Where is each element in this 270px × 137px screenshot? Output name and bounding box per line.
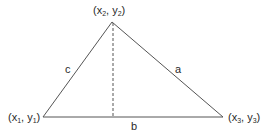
vertex-2-y-sub: 2 xyxy=(118,10,122,17)
side-c-label: c xyxy=(65,63,71,75)
vertex-1-label: (x1, y1) xyxy=(8,111,40,123)
vertex-1-x-sub: 1 xyxy=(17,117,21,124)
side-a-line xyxy=(112,22,223,117)
vertex-2-x-sub: 2 xyxy=(102,10,106,17)
vertex-3-y-sub: 3 xyxy=(253,117,257,124)
vertex-3-label: (x3, y3) xyxy=(228,111,260,123)
vertex-2-label: (x2, y2) xyxy=(93,4,125,16)
side-a-label: a xyxy=(175,63,181,75)
vertex-3-x-sub: 3 xyxy=(237,117,241,124)
side-c-line xyxy=(43,22,112,117)
vertex-1-y-sub: 1 xyxy=(33,117,37,124)
side-b-label: b xyxy=(131,120,137,132)
